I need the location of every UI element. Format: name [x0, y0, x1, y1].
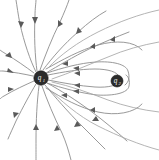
charge-q1-subscript: 1 [43, 78, 45, 83]
charge-q1: q 1 [34, 71, 48, 85]
arrow-head-icon [7, 68, 14, 73]
charge-q2: q 2 [111, 75, 123, 87]
arrow-head-icon [5, 52, 12, 58]
field-line-radial [36, 86, 39, 160]
field-line-radial [40, 0, 69, 70]
charge-q2-label: q [114, 77, 118, 85]
arrow-head-icon [73, 89, 79, 94]
arrow-head-icon [76, 27, 82, 34]
electric-field-diagram: q 1 q 2 [0, 0, 159, 160]
arrow-head-icon [74, 71, 80, 76]
far-field-lines-group [48, 10, 159, 150]
field-line-radial [47, 83, 127, 141]
field-line-canvas: q 1 q 2 [0, 0, 159, 160]
charge-q1-label: q [38, 74, 42, 82]
arrow-head-icon [18, 21, 24, 28]
field-line-radial [0, 50, 34, 73]
arrow-head-icon [32, 17, 38, 24]
field-line-far [52, 82, 159, 112]
field-line-radial [46, 32, 129, 73]
arrow-head-icon [33, 124, 39, 130]
field-line-radial [16, 0, 36, 72]
arrow-head-icon [74, 83, 80, 88]
field-line-radial [8, 84, 36, 139]
field-line-radial [0, 71, 33, 76]
field-line-radial [35, 0, 37, 71]
